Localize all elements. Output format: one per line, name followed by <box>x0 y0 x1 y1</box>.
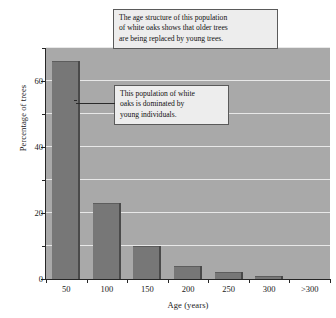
annotation-line-1: The age structure of this population <box>119 13 272 23</box>
bar-top-edge <box>215 272 241 273</box>
plot-area <box>46 48 330 279</box>
x-tick <box>208 279 209 283</box>
x-tick <box>46 279 47 283</box>
annotation-line-1: This population of white <box>120 89 223 99</box>
y-tick-minor <box>42 48 46 49</box>
annotation-line-2: of white oaks shows that older trees <box>119 23 272 33</box>
bar <box>174 266 202 279</box>
annotation-line-2: oaks is dominated by <box>120 99 223 109</box>
y-tick-minor <box>42 180 46 181</box>
annotation-leader-line <box>76 103 115 104</box>
y-tick-minor <box>42 246 46 247</box>
x-axis-line <box>45 279 330 280</box>
y-tick-label: 20 <box>35 208 44 218</box>
x-tick-label: 250 <box>222 284 235 294</box>
x-tick <box>87 279 88 283</box>
annotation-line-3: young individuals. <box>120 110 223 120</box>
x-tick-label: >300 <box>301 284 319 294</box>
bar <box>93 203 121 279</box>
x-tick-label: 100 <box>100 284 113 294</box>
annotation-callout-young-individuals: This population of white oaks is dominat… <box>114 85 229 125</box>
y-tick-label: 40 <box>35 142 44 152</box>
bar <box>133 246 161 279</box>
x-axis-title: Age (years) <box>46 300 330 310</box>
bar-chart-figure: Percentage of trees 0204060 501001502002… <box>0 0 336 318</box>
x-tick <box>330 279 331 283</box>
x-tick-label: 200 <box>182 284 195 294</box>
bar-top-edge <box>52 61 78 62</box>
x-tick <box>249 279 250 283</box>
y-tick-label: 60 <box>35 76 44 86</box>
x-tick <box>127 279 128 283</box>
y-tick-label: 0 <box>39 274 43 284</box>
x-tick-label: 300 <box>263 284 276 294</box>
y-axis-line <box>45 48 46 279</box>
bar <box>215 272 243 279</box>
annotation-line-3: are being replaced by young trees. <box>119 34 272 44</box>
y-axis-title: Percentage of trees <box>18 48 28 188</box>
x-tick-label: 150 <box>141 284 154 294</box>
y-tick-minor <box>42 114 46 115</box>
x-tick <box>168 279 169 283</box>
bars-group <box>46 48 330 279</box>
bar-top-edge <box>93 203 119 204</box>
bar-top-edge <box>255 276 281 277</box>
x-tick <box>289 279 290 283</box>
bar-top-edge <box>133 246 159 247</box>
bar-top-edge <box>174 266 200 267</box>
annotation-callout-age-structure: The age structure of this population of … <box>113 9 278 49</box>
x-tick-label: 50 <box>62 284 71 294</box>
bar <box>52 61 80 279</box>
annotation-leader-line-tip <box>74 100 77 101</box>
